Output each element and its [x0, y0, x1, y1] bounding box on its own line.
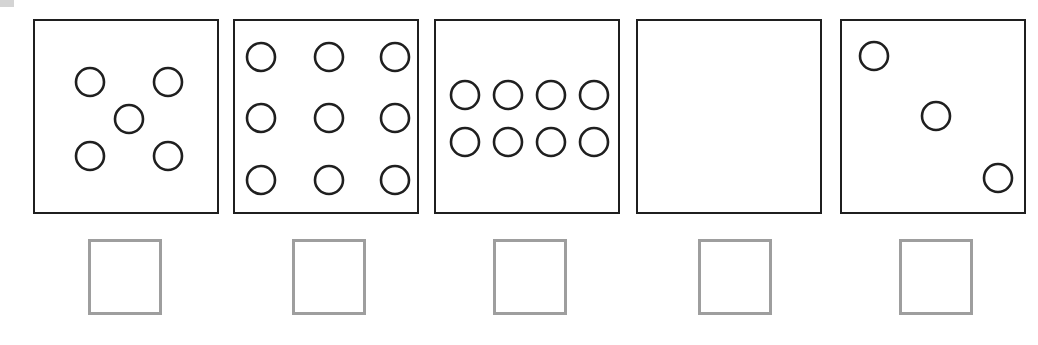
circle-icon: [76, 68, 104, 96]
circle-icon: [115, 105, 143, 133]
circle-icon: [537, 81, 565, 109]
answer-box-3[interactable]: [493, 239, 567, 315]
circle-icon: [922, 102, 950, 130]
circle-icon: [247, 104, 275, 132]
dot-panel-4: [636, 19, 822, 214]
circle-icon: [315, 104, 343, 132]
circle-icon: [381, 104, 409, 132]
circle-icon: [451, 81, 479, 109]
dot-panel-canvas: [842, 21, 1024, 212]
circle-icon: [860, 42, 888, 70]
answer-box-2[interactable]: [292, 239, 366, 315]
circle-icon: [451, 128, 479, 156]
dot-panel-1: [33, 19, 219, 214]
dot-panel-3: [434, 19, 620, 214]
dot-panel-canvas: [436, 21, 618, 212]
answer-box-1[interactable]: [88, 239, 162, 315]
circle-icon: [154, 142, 182, 170]
circle-icon: [494, 128, 522, 156]
circle-icon: [247, 43, 275, 71]
circle-icon: [580, 128, 608, 156]
circle-icon: [580, 81, 608, 109]
circle-icon: [315, 166, 343, 194]
dot-panel-2: [233, 19, 419, 214]
circle-icon: [381, 43, 409, 71]
circle-icon: [76, 142, 104, 170]
answer-box-5[interactable]: [899, 239, 973, 315]
corner-artifact: [0, 0, 14, 7]
dot-panel-canvas: [35, 21, 217, 212]
circle-icon: [984, 164, 1012, 192]
circle-icon: [315, 43, 343, 71]
circle-icon: [381, 166, 409, 194]
circle-icon: [247, 166, 275, 194]
circle-icon: [494, 81, 522, 109]
dot-panel-canvas: [638, 21, 820, 212]
dot-panel-canvas: [235, 21, 417, 212]
circle-icon: [537, 128, 565, 156]
circle-icon: [154, 68, 182, 96]
dot-panel-5: [840, 19, 1026, 214]
answer-box-4[interactable]: [698, 239, 772, 315]
